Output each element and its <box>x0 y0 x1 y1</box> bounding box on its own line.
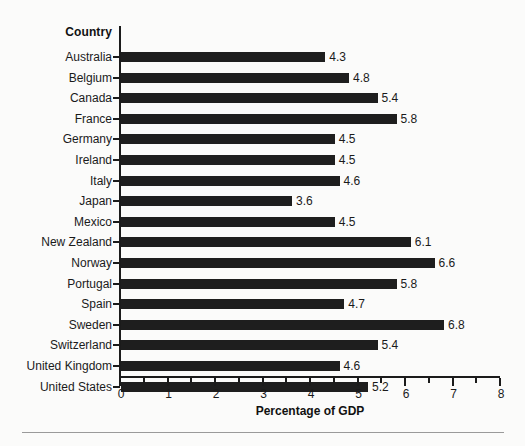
category-label-portugal: Portugal <box>0 274 112 294</box>
x-axis-minor-tick <box>190 378 192 383</box>
bar-mexico <box>121 217 335 227</box>
bar-value-label: 4.5 <box>335 129 356 149</box>
x-axis-major-tick <box>452 378 454 386</box>
bar-value-label: 4.8 <box>349 68 370 88</box>
y-axis-tick <box>113 159 120 161</box>
bar-belgium <box>121 73 349 83</box>
bar-france <box>121 114 397 124</box>
bar-new-zealand <box>121 237 411 247</box>
bar-sweden <box>121 320 444 330</box>
y-axis-tick <box>113 221 120 223</box>
bar-canada <box>121 93 378 103</box>
category-label-switzerland: Switzerland <box>0 335 112 355</box>
bar-australia <box>121 52 325 62</box>
x-axis-tick-label: 7 <box>439 387 469 401</box>
category-label-france: France <box>0 109 112 129</box>
x-axis-minor-tick <box>285 378 287 383</box>
x-axis-tick-label: 0 <box>106 387 136 401</box>
bar-row: Italy4.6 <box>0 171 525 191</box>
bar-chart-figure: Country Australia4.3Belgium4.8Canada5.4F… <box>0 0 525 446</box>
bar-value-label: 5.8 <box>397 109 418 129</box>
bar-germany <box>121 134 335 144</box>
bar-row: United Kingdom4.6 <box>0 356 525 376</box>
category-label-ireland: Ireland <box>0 150 112 170</box>
bar-value-label: 4.5 <box>335 212 356 232</box>
y-axis-tick <box>113 77 120 79</box>
bar-portugal <box>121 279 397 289</box>
bar-japan <box>121 196 292 206</box>
bar-value-label: 4.3 <box>325 47 346 67</box>
category-label-japan: Japan <box>0 191 112 211</box>
bar-italy <box>121 176 340 186</box>
category-label-belgium: Belgium <box>0 68 112 88</box>
x-axis-major-tick <box>167 378 169 386</box>
bar-row: Mexico4.5 <box>0 212 525 232</box>
x-axis-major-tick <box>262 378 264 386</box>
y-axis-tick <box>113 138 120 140</box>
bar-value-label: 4.6 <box>340 171 361 191</box>
x-axis-minor-tick <box>238 378 240 383</box>
bar-switzerland <box>121 340 378 350</box>
bar-value-label: 5.4 <box>378 88 399 108</box>
bar-row: Canada5.4 <box>0 88 525 108</box>
bar-row: Spain4.7 <box>0 294 525 314</box>
bar-value-label: 4.5 <box>335 150 356 170</box>
category-label-united-states: United States <box>0 377 112 397</box>
y-axis-tick <box>113 241 120 243</box>
x-axis-tick-label: 3 <box>249 387 279 401</box>
bar-row: Switzerland5.4 <box>0 335 525 355</box>
x-axis-major-tick <box>309 378 311 386</box>
bar-value-label: 5.4 <box>378 335 399 355</box>
bar-value-label: 5.8 <box>397 274 418 294</box>
bar-ireland <box>121 155 335 165</box>
y-axis-tick <box>113 56 120 58</box>
x-axis-major-tick <box>214 378 216 386</box>
bar-row: Ireland4.5 <box>0 150 525 170</box>
x-axis-minor-tick <box>380 378 382 383</box>
y-axis-tick <box>113 365 120 367</box>
category-label-canada: Canada <box>0 88 112 108</box>
x-axis-major-tick <box>357 378 359 386</box>
category-label-sweden: Sweden <box>0 315 112 335</box>
bar-row: France5.8 <box>0 109 525 129</box>
x-axis-major-tick <box>404 378 406 386</box>
bar-row: Australia4.3 <box>0 47 525 67</box>
category-label-italy: Italy <box>0 171 112 191</box>
x-axis-tick-label: 8 <box>486 387 516 401</box>
x-axis-minor-tick <box>428 378 430 383</box>
x-axis-major-tick <box>119 378 121 386</box>
bar-value-label: 4.7 <box>344 294 365 314</box>
footer-rule <box>22 432 504 433</box>
y-axis-tick <box>113 180 120 182</box>
bar-value-label: 3.6 <box>292 191 313 211</box>
bar-norway <box>121 258 435 268</box>
bar-row: Norway6.6 <box>0 253 525 273</box>
y-axis-tick <box>113 118 120 120</box>
category-axis-title: Country <box>0 25 112 39</box>
category-label-united-kingdom: United Kingdom <box>0 356 112 376</box>
bar-row: Germany4.5 <box>0 129 525 149</box>
category-label-germany: Germany <box>0 129 112 149</box>
y-axis-tick <box>113 344 120 346</box>
x-axis-tick-label: 2 <box>201 387 231 401</box>
x-axis-tick-label: 4 <box>296 387 326 401</box>
bar-value-label: 6.8 <box>444 315 465 335</box>
bar-value-label: 6.6 <box>435 253 456 273</box>
bar-row: Sweden6.8 <box>0 315 525 335</box>
bar-value-label: 4.6 <box>340 356 361 376</box>
y-axis-tick <box>113 97 120 99</box>
y-axis-tick <box>113 324 120 326</box>
x-axis-minor-tick <box>143 378 145 383</box>
x-axis-title: Percentage of GDP <box>120 404 500 418</box>
y-axis-tick <box>113 200 120 202</box>
bar-row: New Zealand6.1 <box>0 232 525 252</box>
y-axis-tick <box>113 283 120 285</box>
x-axis-minor-tick <box>333 378 335 383</box>
y-axis-tick <box>113 303 120 305</box>
x-axis-minor-tick <box>475 378 477 383</box>
category-label-australia: Australia <box>0 47 112 67</box>
bar-united-kingdom <box>121 361 340 371</box>
x-axis-tick-label: 6 <box>391 387 421 401</box>
bar-spain <box>121 299 344 309</box>
bar-value-label: 6.1 <box>411 232 432 252</box>
